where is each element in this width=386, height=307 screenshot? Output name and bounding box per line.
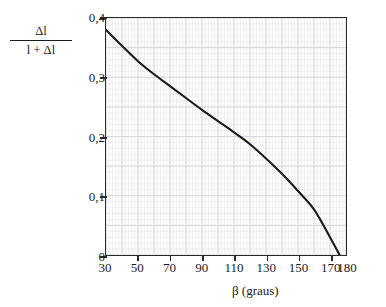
x-tick-labels: 30507090110130150170180: [105, 261, 347, 279]
y-tick-label: 0,3: [59, 71, 105, 84]
chart-figure: Δl l + Δl 0,40,30,20,10 3050709011013015…: [0, 0, 386, 307]
y-tick-label: 0,4: [59, 11, 105, 24]
y-tick-label: 0,1: [59, 190, 105, 203]
x-tick-label: 180: [327, 261, 367, 274]
y-tick-label: 0,2: [59, 131, 105, 144]
x-axis-label: β (graus): [232, 283, 279, 299]
y-tick-labels: 0,40,30,20,10: [0, 17, 386, 256]
